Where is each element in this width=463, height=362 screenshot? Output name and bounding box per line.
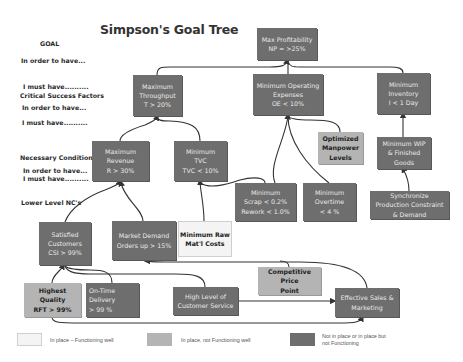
- node-optimized-manpower: Optimized Manpower Levels: [318, 132, 363, 164]
- node-market-demand: Market Demand Orders up > 15%: [112, 221, 176, 260]
- node-label: Minimum Operating Expenses OE < 10%: [257, 81, 320, 109]
- node-label: Market Demand Orders up > 15%: [117, 231, 171, 249]
- node-label: Maximum Throughput T > 20%: [139, 82, 176, 110]
- node-label: Synchronize Production Constraint & Dema…: [375, 191, 443, 219]
- node-min-raw-mat-costs: Minimum Raw Mat'l Costs: [178, 221, 232, 257]
- node-satisfied-customers: Satisfied Customers CSI > 99%: [39, 222, 91, 265]
- node-on-time-delivery: On-Time Delivery > 99 %: [86, 283, 139, 317]
- legend-label-not-functioning: Not in place or in place but not Functio…: [322, 333, 386, 347]
- node-max-throughput: Maximum Throughput T > 20%: [133, 75, 182, 116]
- node-min-tvc: Minimum TVC TVC < 10%: [174, 141, 227, 181]
- node-min-overtime: Minimum Overtime < 4 %: [303, 183, 356, 221]
- node-label: Minimum Raw Mat'l Costs: [180, 230, 230, 248]
- legend-label-functioning-well: In place – Functioning well: [50, 337, 114, 344]
- node-label: Satisfied Customers CSI > 99%: [48, 230, 82, 258]
- node-competitive-price: Competitive Price Point: [258, 267, 321, 295]
- node-label: Competitive Price Point: [259, 267, 320, 295]
- node-label: High Level of Customer Service: [178, 292, 234, 310]
- legend-label-not-functioning-well: In place, not Functioning well: [181, 337, 251, 344]
- legend-swatch-not-functioning-well: [147, 333, 172, 346]
- node-label: Minimum Inventory I < 1 Day: [388, 80, 418, 108]
- node-label: Minimum Overtime < 4 %: [315, 188, 344, 216]
- node-label: On-Time Delivery > 99 %: [89, 286, 115, 314]
- node-sync-production: Synchronize Production Constraint & Dema…: [370, 191, 449, 219]
- node-label: Effective Sales & Marketing: [340, 293, 393, 311]
- legend-swatch-functioning-well: [17, 333, 42, 346]
- node-label: Minimum Scrap < 0.2% Rework < 1.0%: [241, 188, 289, 216]
- legend-swatch-not-functioning: [290, 333, 315, 346]
- node-label: Optimized Manpower Levels: [322, 134, 359, 162]
- node-label: Highest Quality RFT > 99%: [25, 286, 80, 314]
- node-highest-quality: Highest Quality RFT > 99%: [24, 283, 81, 317]
- node-min-scrap: Minimum Scrap < 0.2% Rework < 1.0%: [235, 183, 296, 221]
- node-max-revenue: Maximum Revenue R > 30%: [92, 141, 149, 181]
- node-label: Minimum TVC TVC < 10%: [183, 147, 219, 175]
- node-label: Maximum Revenue R > 30%: [105, 147, 136, 175]
- node-customer-service: High Level of Customer Service: [173, 287, 238, 315]
- node-sales-marketing: Effective Sales & Marketing: [335, 288, 399, 317]
- node-max-profitability: Max Profitability NP = >25%: [257, 28, 317, 60]
- node-min-inventory: Minimum Inventory I < 1 Day: [377, 73, 430, 114]
- node-label: Minimum WIP & Finished Goods: [382, 139, 425, 167]
- node-min-wip: Minimum WIP & Finished Goods: [377, 137, 431, 169]
- node-label: Max Profitability NP = >25%: [262, 35, 313, 53]
- node-min-operating-expenses: Minimum Operating Expenses OE < 10%: [253, 74, 323, 115]
